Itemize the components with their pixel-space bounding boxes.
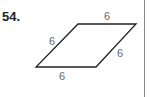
column-divider: [144, 0, 145, 97]
label-left: 6: [49, 35, 55, 47]
label-bottom: 6: [59, 70, 65, 82]
label-top: 6: [104, 10, 110, 22]
rhombus-figure: 6 6 6 6: [0, 0, 151, 97]
label-right: 6: [117, 47, 123, 59]
